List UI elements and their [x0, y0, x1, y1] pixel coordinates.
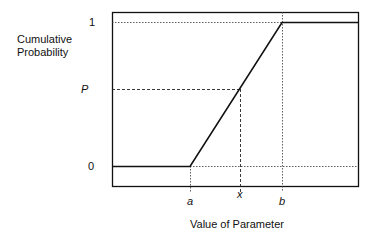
tick-y-zero: 0 [88, 160, 94, 173]
tick-y-one: 1 [89, 16, 95, 29]
y-axis-label: Cumulative Probability [17, 33, 72, 59]
plot-frame [113, 13, 359, 187]
x-axis-label: Value of Parameter [190, 218, 284, 231]
tick-x-x: x [237, 188, 243, 201]
y-label-line1: Cumulative [17, 33, 72, 46]
cdf-curve [112, 23, 358, 167]
y-label-line2: Probability [17, 46, 72, 59]
tick-x-b: b [279, 195, 285, 208]
tick-y-p: P [81, 83, 88, 96]
tick-x-a: a [187, 195, 193, 208]
